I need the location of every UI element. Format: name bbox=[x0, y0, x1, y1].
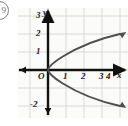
y-tick-2: 2 bbox=[36, 28, 41, 38]
y-tick-1: 1 bbox=[36, 46, 41, 56]
x-axis-arrow-left bbox=[20, 67, 26, 74]
coordinate-plane: y x O 3 2 1 -2 1 2 3 4 bbox=[18, 8, 128, 118]
y-tick-3: 3 bbox=[36, 10, 41, 20]
x-tick-1: 1 bbox=[63, 71, 68, 81]
grid-horizontal bbox=[18, 16, 128, 106]
x-axis-label: x bbox=[117, 70, 122, 80]
origin-label: O bbox=[38, 71, 45, 81]
y-axis-label: y bbox=[43, 8, 47, 17]
y-tick-neg2: -2 bbox=[30, 99, 38, 109]
y-axis-arrow-down bbox=[45, 108, 52, 114]
x-tick-4: 4 bbox=[106, 71, 111, 81]
grid-vertical bbox=[30, 8, 120, 118]
math-figure: 9 bbox=[0, 0, 128, 126]
x-tick-3: 3 bbox=[99, 71, 104, 81]
x-tick-2: 2 bbox=[81, 71, 86, 81]
problem-number-badge: 9 bbox=[0, 1, 9, 20]
